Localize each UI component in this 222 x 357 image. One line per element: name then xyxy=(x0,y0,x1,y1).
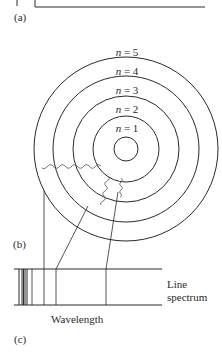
photon-3 xyxy=(120,178,123,197)
photon-2 xyxy=(100,176,109,205)
orbit-label-n1: n = 1 xyxy=(116,122,139,134)
orbit-label-n3: n = 3 xyxy=(116,84,139,96)
nucleus xyxy=(114,137,138,161)
spectrum-label: Line spectrum xyxy=(167,278,207,304)
line-spectrum xyxy=(14,269,162,305)
panel-a-frame xyxy=(17,0,205,7)
photon-1 xyxy=(42,165,101,169)
photon-emissions xyxy=(42,165,123,205)
panel-b-label: (b) xyxy=(13,238,26,250)
orbit-n3 xyxy=(53,76,199,222)
orbit-label-n5: n = 5 xyxy=(116,46,139,58)
orbit-label-n2: n = 2 xyxy=(116,103,139,115)
panel-a-label: (a) xyxy=(14,11,26,23)
spectrum-label-line2: spectrum xyxy=(167,291,207,304)
wavelength-axis-label: Wavelength xyxy=(51,313,103,326)
spectrum-label-line1: Line xyxy=(167,278,207,291)
panel-c-label: (c) xyxy=(14,333,26,345)
orbit-label-n4: n = 4 xyxy=(116,65,139,77)
